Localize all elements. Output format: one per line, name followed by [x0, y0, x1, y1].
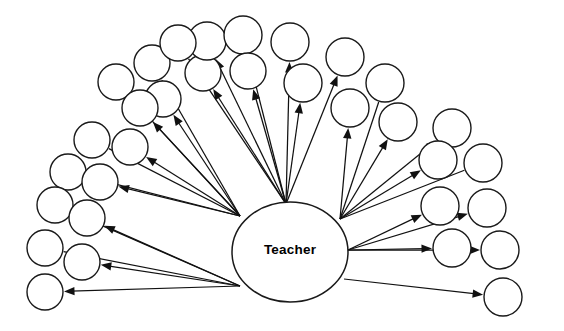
hub-label: Teacher — [264, 242, 317, 257]
node-circle-n19[interactable] — [433, 229, 471, 267]
node-circle-n11[interactable] — [331, 89, 369, 127]
edge-line — [340, 145, 384, 219]
edge-n30 — [64, 286, 240, 295]
edge-n21 — [344, 279, 483, 298]
edge-n13 — [340, 139, 388, 219]
arrowhead-icon — [295, 103, 303, 114]
edge-n29 — [101, 262, 240, 286]
node-circle-n07[interactable] — [230, 53, 266, 89]
arrowhead-icon — [343, 128, 351, 139]
arrowhead-icon — [411, 215, 422, 223]
node-circle-n31[interactable] — [122, 90, 158, 126]
edge-line — [344, 279, 476, 294]
node-circle-n09[interactable] — [284, 64, 322, 102]
edge-line — [108, 266, 240, 286]
node-circle-n21[interactable] — [484, 278, 522, 316]
node-circle-n29[interactable] — [64, 244, 100, 280]
edge-line — [348, 218, 416, 250]
arrowhead-icon — [104, 226, 115, 234]
node-circle-n24[interactable] — [50, 154, 86, 190]
edge-n27 — [104, 226, 240, 286]
node-circle-n30[interactable] — [27, 274, 63, 310]
edge-line — [125, 188, 240, 216]
node-circle-n25[interactable] — [82, 164, 118, 200]
node-circle-n28[interactable] — [27, 230, 63, 266]
edge-line — [340, 174, 415, 219]
arrowhead-icon — [457, 213, 468, 221]
edge-line — [340, 145, 431, 219]
arrowhead-icon — [173, 115, 182, 126]
node-circle-n04[interactable] — [185, 55, 221, 91]
arrowhead-icon — [410, 170, 421, 179]
node-circle-n20[interactable] — [481, 231, 519, 269]
node-circle-n18[interactable] — [468, 189, 506, 227]
node-circle-n06[interactable] — [224, 16, 262, 54]
edge-n11 — [340, 128, 351, 219]
diagram-canvas: Teacher — [0, 0, 564, 331]
hub-group[interactable]: Teacher — [232, 202, 348, 302]
node-circle-n26[interactable] — [37, 187, 73, 223]
node-circle-n16[interactable] — [464, 144, 502, 182]
node-circle-n32[interactable] — [160, 25, 196, 61]
edge-n15 — [340, 170, 421, 219]
teacher-radial-diagram: Teacher — [0, 0, 564, 331]
node-circle-n22[interactable] — [74, 122, 110, 158]
arrowhead-icon — [146, 157, 157, 166]
edge-line — [71, 286, 240, 291]
arrowhead-icon — [64, 287, 75, 295]
edge-line — [111, 229, 240, 286]
arrowhead-icon — [421, 244, 432, 252]
edge-n03 — [173, 115, 240, 216]
node-circle-n15[interactable] — [419, 141, 457, 179]
arrowhead-icon — [472, 289, 483, 297]
node-circle-n10[interactable] — [326, 38, 364, 76]
arrowhead-icon — [379, 139, 388, 150]
edge-n07 — [252, 89, 286, 204]
edge-n17 — [348, 215, 422, 250]
node-circle-n08[interactable] — [271, 23, 309, 61]
edge-line — [177, 121, 240, 216]
node-circle-n13[interactable] — [379, 103, 417, 141]
arrowhead-icon — [330, 76, 338, 87]
arrowhead-icon — [101, 262, 112, 270]
node-circle-n17[interactable] — [421, 187, 459, 225]
arrowhead-icon — [118, 185, 129, 193]
node-circle-n23[interactable] — [112, 129, 148, 165]
node-circle-n27[interactable] — [69, 200, 105, 236]
node-circle-n12[interactable] — [366, 64, 404, 102]
